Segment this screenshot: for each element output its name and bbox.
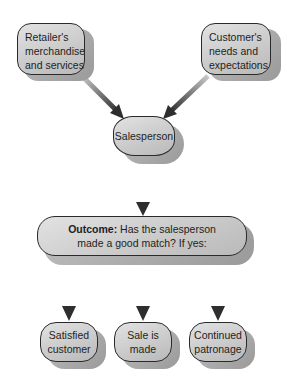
arrow-customer-to-salesperson [163,76,208,119]
outcome-node: Outcome: Has the salesperson made a good… [37,216,247,256]
salesperson-node: Salesperson [113,116,175,156]
patronage-line-1: Continued [194,328,242,342]
customer-line-2: needs and [209,44,270,58]
arrow-salesperson-to-outcome [136,160,150,216]
retailer-node: Retailer's merchandise and services [17,23,85,75]
retailer-line-1: Retailer's [25,30,84,44]
patronage-line-2: patronage [194,342,241,356]
patronage-node: Continued patronage [189,322,247,362]
retailer-line-3: and services [25,58,84,72]
satisfied-line-1: Satisfied [49,328,89,342]
customer-line-3: expectations [209,58,270,72]
customer-line-1: Customer's [209,30,270,44]
arrow-outcome-to-satisfied [62,263,76,321]
satisfied-line-2: customer [47,342,90,356]
sale-line-2: made [130,342,156,356]
satisfied-node: Satisfied customer [40,322,98,362]
customer-node: Customer's needs and expectations [201,23,271,75]
outcome-line-2: made a good match? If yes: [77,236,207,250]
arrow-outcome-to-patronage [211,263,225,321]
outcome-line-1: Outcome: Has the salesperson [68,222,216,236]
outcome-label: Outcome: [68,223,117,235]
salesperson-label: Salesperson [115,129,173,143]
sale-node: Sale is made [114,322,172,362]
retailer-line-2: merchandise [25,44,84,58]
outcome-question-part-1: Has the salesperson [117,223,216,235]
arrow-retailer-to-salesperson [82,76,124,119]
arrow-outcome-to-sale [136,263,150,321]
flowchart-canvas: Retailer's merchandise and services Cust… [0,0,287,389]
sale-line-1: Sale is [127,328,159,342]
